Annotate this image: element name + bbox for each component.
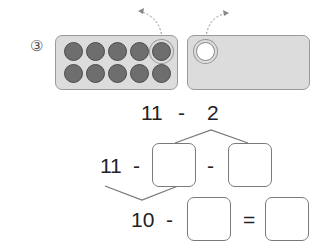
step2-left: 10 xyxy=(131,208,154,232)
answer-box-4[interactable] xyxy=(265,197,309,241)
step1-op1: - xyxy=(133,154,140,178)
step2-op: - xyxy=(166,208,173,232)
step1-left: 11 xyxy=(100,154,122,178)
answer-box-3[interactable] xyxy=(187,197,231,241)
answer-box-1[interactable] xyxy=(152,143,196,187)
answer-box-2[interactable] xyxy=(228,143,272,187)
step1-op2: - xyxy=(207,154,214,178)
step2-eq: = xyxy=(243,208,255,232)
